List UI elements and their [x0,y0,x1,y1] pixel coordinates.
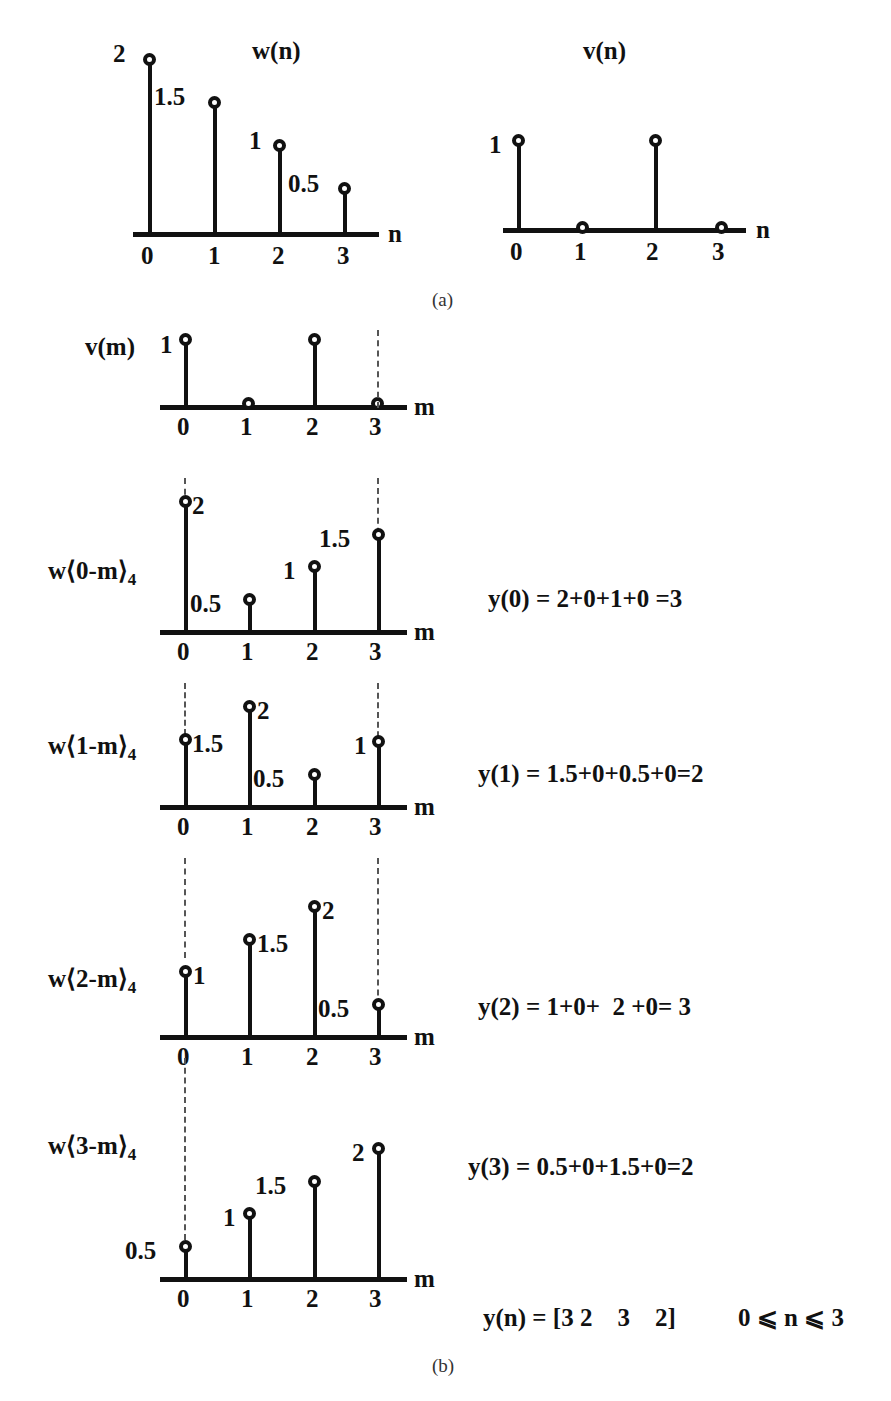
marker-w-0-m-0 [179,495,192,508]
marker-w-0-m-2 [308,560,321,573]
marker-w-1-m-3 [372,735,385,748]
value-label-w-1-m-0: 1.5 [192,731,223,756]
alignment-dashed-line-left-row3 [184,858,186,958]
marker-v-n-2 [649,134,662,147]
tick-w-1-m-2: 2 [306,814,319,839]
result-range-n: 0 ⩽ n ⩽ 3 [738,1305,844,1330]
tick-v-m-1: 1 [240,414,253,439]
tick-w-0-m-3: 3 [369,639,382,664]
axis-label-w-1-m: m [414,794,435,819]
value-label-v-n-0: 1 [489,132,502,157]
stem-w-n-3 [343,189,347,234]
marker-w-0-m-1 [243,593,256,606]
axis-label-w-0-m: m [414,619,435,644]
axis-label-v-m: m [414,394,435,419]
stem-w-n-2 [278,146,282,234]
stem-w-2-m-1 [248,940,252,1038]
tick-w-3-m-3: 3 [369,1286,382,1311]
value-label-w-2-m-3: 0.5 [318,996,349,1021]
value-label-w-2-m-2: 2 [322,898,335,923]
marker-w-n-2 [273,139,286,152]
value-label-w-1-m-1: 2 [257,698,270,723]
equation-y0: y(0) = 2+0+1+0 =3 [488,586,682,611]
axis-label-v-n: n [756,217,770,242]
stem-v-n-0 [517,141,521,231]
stem-w-1-m-0 [184,740,188,808]
tick-w-2-m-2: 2 [306,1044,319,1069]
stem-v-n-2 [654,141,658,231]
value-label-w-n-0: 2 [113,41,126,66]
value-label-w-1-m-3: 1 [354,733,367,758]
axis-line-v-n [503,228,746,233]
marker-w-1-m-1 [243,700,256,713]
stem-w-1-m-3 [377,742,381,808]
tick-w-0-m-1: 1 [241,639,254,664]
value-label-w-3-m-2: 1.5 [255,1173,286,1198]
stem-w-0-m-2 [313,567,317,633]
tick-w-n-3: 3 [337,243,350,268]
stem-w-3-m-1 [248,1214,252,1280]
axis-line-w-1-m [160,805,407,810]
value-label-w-0-m-2: 1 [283,558,296,583]
caption-b: (b) [432,1356,454,1375]
tick-v-n-3: 3 [712,239,725,264]
tick-v-n-0: 0 [510,239,523,264]
tick-w-1-m-1: 1 [241,814,254,839]
marker-w-3-m-3 [372,1142,385,1155]
tick-w-0-m-0: 0 [177,639,190,664]
tick-v-m-0: 0 [177,414,190,439]
stem-w-2-m-0 [184,972,188,1038]
stem-w-n-1 [213,103,217,234]
marker-w-2-m-1 [243,933,256,946]
stem-w-0-m-3 [377,535,381,633]
marker-w-2-m-3 [372,998,385,1011]
axis-label-w-3-m: m [414,1266,435,1291]
value-label-w-3-m-0: 0.5 [125,1238,156,1263]
value-label-w-3-m-1: 1 [223,1205,236,1230]
tick-w-2-m-3: 3 [369,1044,382,1069]
tick-v-n-2: 2 [646,239,659,264]
stem-w-3-m-2 [313,1182,317,1280]
value-label-w-3-m-3: 2 [352,1140,365,1165]
value-label-w-n-1: 1.5 [154,84,185,109]
alignment-dashed-line-right-row0 [377,330,379,408]
value-label-w-n-3: 0.5 [288,171,319,196]
marker-w-n-3 [338,182,351,195]
tick-w-n-1: 1 [208,243,221,268]
stem-w-1-m-1 [248,707,252,808]
tick-w-3-m-2: 2 [306,1286,319,1311]
caption-a: (a) [432,290,453,309]
axis-label-w-n: n [388,221,402,246]
marker-w-n-1 [208,96,221,109]
equation-y1: y(1) = 1.5+0+0.5+0=2 [478,761,703,786]
figure-circular-convolution: w(n) n 2 1.5 1 0.5 0 1 2 3 v(n) n 1 [0,0,891,1401]
tick-w-0-m-2: 2 [306,639,319,664]
value-label-w-2-m-1: 1.5 [257,931,288,956]
equation-y3: y(3) = 0.5+0+1.5+0=2 [468,1154,693,1179]
tick-w-n-2: 2 [272,243,285,268]
stem-w-0-m-0 [184,502,188,633]
marker-v-n-0 [512,134,525,147]
row-label-w-2-m: w⟨2-m⟩4 [48,966,136,996]
tick-v-m-3: 3 [369,414,382,439]
marker-w-1-m-0 [179,733,192,746]
row-label-v-m: v(m) [85,334,135,359]
value-label-w-0-m-1: 0.5 [190,591,221,616]
tick-w-3-m-1: 1 [241,1286,254,1311]
stem-w-2-m-2 [313,907,317,1038]
value-label-w-1-m-2: 0.5 [253,766,284,791]
marker-w-3-m-0 [179,1240,192,1253]
marker-w-1-m-2 [308,768,321,781]
plot-title-v-n: v(n) [583,38,626,63]
alignment-dashed-line-left-row4 [184,1058,186,1240]
marker-w-3-m-2 [308,1175,321,1188]
axis-line-v-m [160,405,407,410]
value-label-v-m-0: 1 [160,332,173,357]
tick-v-n-1: 1 [574,239,587,264]
marker-w-2-m-2 [308,900,321,913]
axis-line-w-2-m [160,1035,407,1040]
marker-w-0-m-3 [372,528,385,541]
alignment-dashed-line-left-row2 [184,683,186,735]
stem-v-m-0 [184,340,188,408]
tick-w-3-m-0: 0 [177,1286,190,1311]
